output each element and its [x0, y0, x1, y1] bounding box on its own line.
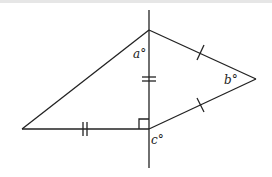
- segment-top-right: [149, 30, 256, 79]
- single-tick-foot-right: [197, 98, 204, 112]
- angle-label-b: b°: [224, 73, 238, 87]
- angle-label-c: c°: [151, 133, 164, 147]
- geometry-diagram: a° b° c°: [0, 0, 272, 177]
- segment-top-left: [22, 30, 149, 129]
- angle-label-a: a°: [133, 47, 146, 61]
- right-angle-marker: [139, 119, 149, 129]
- segment-foot-right: [149, 79, 256, 129]
